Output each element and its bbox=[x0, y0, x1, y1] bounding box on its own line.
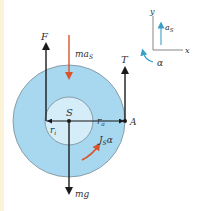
label-s: S bbox=[66, 107, 73, 118]
label-y-axis: y bbox=[149, 7, 155, 16]
coordinate-axes: y x aS α bbox=[143, 7, 190, 68]
label-a-s: aS bbox=[165, 23, 174, 33]
label-a: A bbox=[129, 117, 137, 127]
label-x-axis: x bbox=[185, 46, 190, 55]
free-body-diagram: S A ri ra F maS T mg JSα y x aS α bbox=[0, 0, 197, 211]
label-f: F bbox=[40, 31, 49, 42]
label-mg: mg bbox=[75, 189, 90, 199]
label-ma-s: maS bbox=[75, 49, 93, 60]
label-t: T bbox=[121, 54, 129, 65]
label-alpha: α bbox=[157, 58, 163, 68]
angular-acceleration-arrow bbox=[143, 52, 153, 62]
